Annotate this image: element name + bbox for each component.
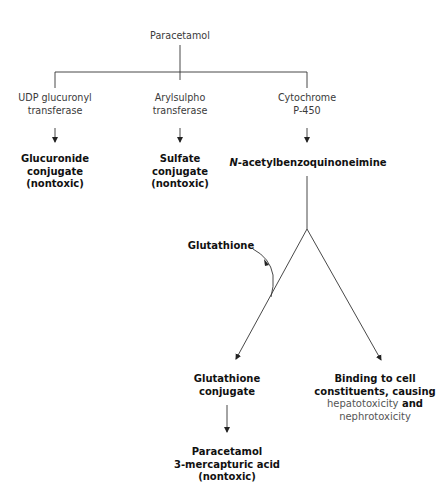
glutathione-label: Glutathione	[188, 240, 254, 253]
napqi-label: N-acetylbenzoquinoneimine	[229, 157, 386, 170]
root-label: Paracetamol	[150, 30, 210, 43]
glutathione-curve-line	[253, 249, 273, 297]
paracetamol-metabolism-diagram: Paracetamol UDP glucuronyl transferase A…	[0, 0, 445, 503]
binding-cell-constituents-label: Binding to cell constituents, causing he…	[314, 373, 435, 423]
product-glucuronide-conjugate: Glucuronide conjugate (nontoxic)	[21, 153, 89, 191]
glutathione-conjugate-label: Glutathione conjugate	[194, 373, 260, 398]
enzyme-arylsulpho-transferase: Arylsulpho transferase	[153, 92, 208, 117]
mercapturic-acid-label: Paracetamol 3-mercapturic acid (nontoxic…	[174, 446, 280, 484]
product-sulfate-conjugate: Sulfate conjugate (nontoxic)	[151, 153, 209, 191]
enzyme-udp-glucuronyl-transferase: UDP glucuronyl transferase	[18, 92, 91, 117]
arrow-binding	[307, 229, 381, 360]
enzyme-cytochrome-p450: Cytochrome P-450	[278, 92, 336, 117]
